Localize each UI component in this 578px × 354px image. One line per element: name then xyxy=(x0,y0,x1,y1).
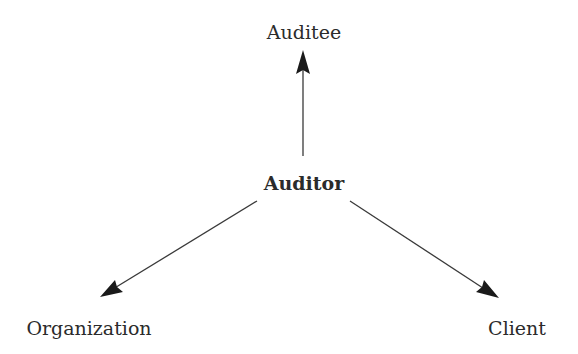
arrowhead-icon xyxy=(476,280,499,298)
arrowhead-icon xyxy=(100,280,123,297)
node-organization: Organization xyxy=(26,317,151,339)
node-client: Client xyxy=(488,317,546,339)
node-auditor: Auditor xyxy=(263,172,346,194)
auditor-relationship-diagram: Auditee Auditor Organization Client xyxy=(0,0,578,354)
node-auditee: Auditee xyxy=(266,21,341,43)
edge-auditor-to-client xyxy=(350,201,499,298)
edge-auditor-to-organization xyxy=(100,201,257,297)
edge-auditor-to-auditee xyxy=(296,50,310,156)
